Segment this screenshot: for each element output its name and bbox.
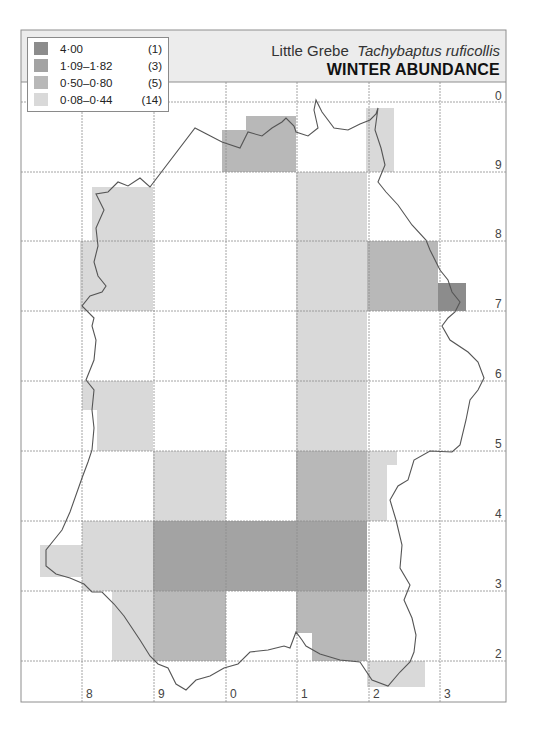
legend-item: 0·08–0·44 (14) — [34, 91, 162, 108]
cell-1-3 — [296, 521, 367, 591]
cell-1-7 — [296, 241, 367, 311]
cell-8-8 — [92, 187, 153, 241]
cell-9-4 — [153, 451, 226, 521]
cell-3-7 — [438, 283, 466, 311]
x-label-0: 0 — [230, 687, 237, 701]
cell-0-3 — [226, 521, 296, 591]
legend-range: 0·08–0·44 — [60, 94, 142, 106]
abundance-cells — [40, 108, 466, 687]
y-label-0: 0 — [495, 89, 502, 103]
y-label-2: 2 — [495, 647, 502, 661]
legend-swatch-4-00 — [34, 42, 48, 55]
species-name: Little Grebe Tachybaptus ruficollis — [271, 41, 500, 60]
legend-range: 1·09–1·82 — [60, 60, 148, 72]
cell-1-8 — [296, 172, 367, 241]
legend-swatch-0-50-0-80 — [34, 76, 48, 89]
legend-count: (5) — [148, 77, 162, 89]
legend-swatch-0-08-0-44 — [34, 93, 48, 106]
x-label-2: 2 — [373, 687, 380, 701]
common-name: Little Grebe — [271, 42, 349, 59]
cell-2-9 — [366, 108, 394, 172]
scientific-name: Tachybaptus ruficollis — [357, 42, 500, 59]
y-label-8: 8 — [495, 227, 502, 241]
legend-count: (1) — [148, 43, 162, 55]
cell-9-3 — [153, 521, 226, 591]
map-subtitle: WINTER ABUNDANCE — [271, 60, 500, 80]
cell-1-2-mask — [296, 633, 312, 661]
legend-swatch-1-09-1-82 — [34, 59, 48, 72]
legend-item: 4·00 (1) — [34, 40, 162, 57]
legend-range: 4·00 — [60, 43, 148, 55]
map-title: Little Grebe Tachybaptus ruficollis WINT… — [271, 41, 500, 80]
x-label-1: 1 — [301, 687, 308, 701]
legend-count: (3) — [148, 60, 162, 72]
legend-range: 0·50–0·80 — [60, 77, 148, 89]
cell-2-4-mask — [387, 465, 397, 521]
x-label-3: 3 — [444, 687, 451, 701]
y-label-7: 7 — [495, 297, 502, 311]
cell-8-7 — [80, 241, 153, 311]
y-label-3: 3 — [495, 577, 502, 591]
cell-0-9 — [222, 130, 296, 172]
y-label-6: 6 — [495, 367, 502, 381]
legend-item: 0·50–0·80 (5) — [34, 74, 162, 91]
x-label-9: 9 — [158, 687, 165, 701]
cell-8-5-mask — [82, 410, 97, 451]
cell-0-9-part — [246, 116, 296, 132]
legend-item: 1·09–1·82 (3) — [34, 57, 162, 74]
cell-1-6 — [296, 311, 367, 381]
cell-1-4 — [296, 451, 367, 521]
y-label-5: 5 — [495, 437, 502, 451]
x-label-8: 8 — [86, 687, 93, 701]
legend: 4·00 (1) 1·09–1·82 (3) 0·50–0·80 (5) 0·0… — [27, 37, 169, 112]
cell-1-5 — [296, 381, 367, 451]
cell-8-3 — [82, 521, 153, 591]
cell-9-2 — [153, 591, 226, 661]
y-label-4: 4 — [495, 507, 502, 521]
y-label-9: 9 — [495, 158, 502, 172]
cell-2-1 — [367, 661, 425, 687]
legend-count: (14) — [142, 94, 162, 106]
cell-2-7 — [367, 241, 438, 311]
